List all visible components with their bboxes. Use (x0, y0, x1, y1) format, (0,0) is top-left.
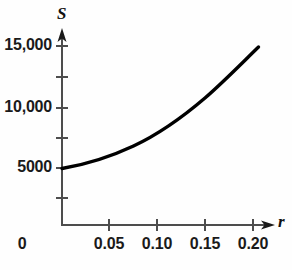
x-axis-name: r (278, 212, 285, 232)
chart-figure: S r 15,000 10,000 5000 0 0.05 0.10 0.15 … (0, 0, 292, 270)
x-tick-label-0.20: 0.20 (223, 235, 283, 253)
y-axis (58, 28, 67, 226)
y-tick-label-5000: 5000 (0, 158, 52, 176)
data-curve-S (62, 47, 259, 169)
x-axis (62, 221, 275, 230)
y-axis-name: S (57, 4, 66, 24)
x-tick-label-0: 0 (8, 235, 36, 253)
y-tick-label-15000: 15,000 (0, 36, 52, 54)
y-tick-label-10000: 10,000 (0, 98, 52, 116)
